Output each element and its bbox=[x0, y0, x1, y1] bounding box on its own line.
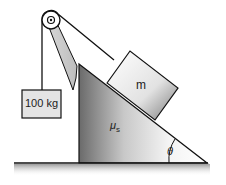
pulley-center bbox=[50, 19, 52, 21]
angle-label: θ bbox=[167, 145, 173, 157]
hanging-mass-label: 100 kg bbox=[25, 97, 58, 109]
diagram-canvas bbox=[0, 0, 226, 185]
block-label: m bbox=[136, 78, 146, 92]
incline-pulley-diagram: 100 kg m μs θ bbox=[0, 0, 226, 185]
friction-subscript: s bbox=[116, 125, 120, 134]
friction-coefficient-label: μs bbox=[110, 119, 120, 134]
ground-shadow bbox=[14, 164, 210, 176]
